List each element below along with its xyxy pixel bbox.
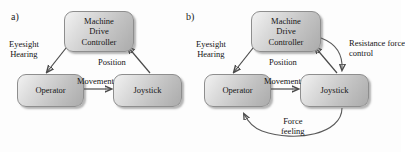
node-operator: Operator: [17, 74, 84, 107]
edge-label-eyesight-hearing: Eyesight Position Hearing: [196, 39, 226, 59]
arrow-controller-to-joystick: [321, 38, 342, 70]
panel-a: a) Machine Drive Controller Operator: [0, 0, 196, 152]
arrow-joystick-to-controller: [315, 47, 337, 73]
panel-b: b) Machine Drive: [196, 0, 401, 152]
node-machine-drive-controller: Machine Drive Controller: [251, 11, 321, 52]
edge-label-position: Position: [269, 57, 297, 67]
edge-label-resistance-force-control: Resistance force control: [349, 38, 405, 58]
arrow-joystick-to-controller: [128, 47, 150, 73]
node-joystick: Joystick: [300, 74, 369, 107]
edge-label-movement: Movement: [264, 76, 301, 86]
node-joystick: Joystick: [113, 74, 182, 107]
node-controller-text: Machine Drive Controller: [267, 16, 306, 48]
node-controller-text: Machine Drive Controller: [80, 16, 119, 48]
edge-label-eyesight-hearing: Eyesight Hearing: [9, 39, 39, 59]
edge-label-position: Position: [98, 57, 126, 67]
node-operator: Operator: [204, 74, 271, 107]
edge-label-force-feeling: Force feeling: [281, 116, 305, 136]
node-machine-drive-controller: Machine Drive Controller: [64, 11, 134, 52]
edge-label-movement: Movement: [77, 76, 114, 86]
panel-b-label: b): [186, 12, 194, 22]
